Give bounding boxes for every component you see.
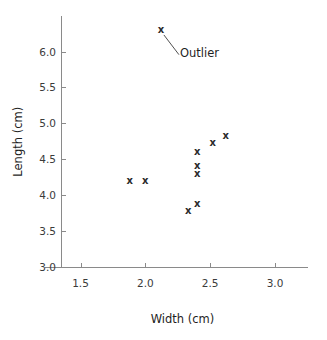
data-point-marker: x bbox=[156, 25, 166, 35]
y-tick-label: 5.5 bbox=[22, 82, 56, 93]
x-tick-label: 3.0 bbox=[255, 272, 295, 291]
y-tick-label-text: 3.0 bbox=[22, 262, 56, 273]
data-point-marker: x bbox=[125, 176, 135, 186]
data-point-marker: x bbox=[192, 161, 202, 171]
x-axis-title-text: Width (cm) bbox=[113, 314, 215, 326]
y-tick-mark bbox=[62, 231, 66, 232]
x-tick-label: 1.5 bbox=[61, 272, 101, 291]
x-axis-title: Width (cm) bbox=[0, 314, 327, 326]
data-point-marker: x bbox=[140, 176, 150, 186]
x-tick-mark bbox=[81, 263, 82, 267]
x-tick-label-text: 2.5 bbox=[202, 277, 219, 289]
y-tick-mark bbox=[62, 123, 66, 124]
y-tick-label: 3.5 bbox=[22, 226, 56, 237]
scatter-plot-figure: 3.03.54.04.55.05.56.0 1.52.02.53.0 xxxxx… bbox=[0, 0, 327, 340]
y-tick-label-text: 4.5 bbox=[22, 154, 56, 165]
y-axis-title: Length (cm) bbox=[13, 77, 25, 207]
y-tick-label-text: 5.0 bbox=[22, 118, 56, 129]
y-tick-label-text: 3.5 bbox=[22, 226, 56, 237]
data-point-marker: x bbox=[192, 147, 202, 157]
x-tick-mark bbox=[145, 263, 146, 267]
x-tick-mark bbox=[275, 263, 276, 267]
y-tick-mark bbox=[62, 52, 66, 53]
y-tick-label: 3.0 bbox=[22, 262, 56, 273]
y-tick-mark bbox=[62, 195, 66, 196]
x-tick-label: 2.5 bbox=[190, 272, 230, 291]
y-tick-label: 5.0 bbox=[22, 118, 56, 129]
x-tick-mark bbox=[210, 263, 211, 267]
y-tick-label-text: 6.0 bbox=[22, 47, 56, 58]
outlier-annotation-label: Outlier bbox=[180, 48, 219, 60]
y-tick-mark bbox=[62, 87, 66, 88]
data-point-marker: x bbox=[208, 138, 218, 148]
x-tick-label: 2.0 bbox=[125, 272, 165, 291]
y-tick-mark bbox=[62, 159, 66, 160]
x-tick-label-text: 1.5 bbox=[72, 277, 89, 289]
x-axis-line bbox=[45, 267, 308, 268]
y-tick-label-text: 4.0 bbox=[22, 190, 56, 201]
x-tick-label-text: 3.0 bbox=[267, 277, 284, 289]
y-tick-label: 4.5 bbox=[22, 154, 56, 165]
y-tick-mark bbox=[62, 267, 66, 268]
x-tick-label-text: 2.0 bbox=[137, 277, 154, 289]
data-point-marker: x bbox=[221, 131, 231, 141]
y-tick-label: 4.0 bbox=[22, 190, 56, 201]
data-point-marker: x bbox=[192, 199, 202, 209]
y-tick-label-text: 5.5 bbox=[22, 82, 56, 93]
y-tick-label: 6.0 bbox=[22, 47, 56, 58]
